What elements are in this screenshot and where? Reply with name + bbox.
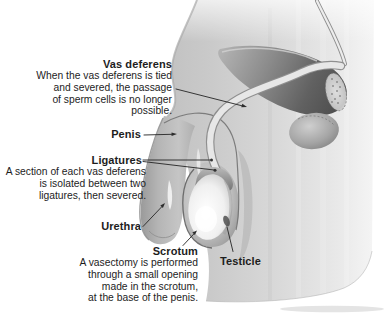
ligatures-note-line-2: is isolated between two: [6, 178, 146, 190]
testicle-label: Testicle: [220, 255, 261, 267]
callout-testicle: Testicle: [220, 255, 261, 267]
streak: [320, 0, 326, 296]
callout-vas-deferens: Vas deferens When the vas deferens is ti…: [36, 58, 172, 117]
ligatures-note-line-3: ligatures, then severed.: [6, 190, 146, 202]
streak: [296, 0, 301, 298]
streak: [344, 0, 349, 292]
scrotum-leader-line: [183, 234, 194, 246]
urethra-label: Urethra: [101, 220, 141, 232]
scrotum-note-line-3: made in the scrotum,: [80, 281, 198, 293]
penis-label: Penis: [111, 128, 141, 140]
vasectomy-diagram: Vas deferens When the vas deferens is ti…: [0, 0, 387, 315]
scrotum-label: Scrotum: [80, 245, 198, 257]
vas-deferens-note-line-4: possible.: [36, 105, 172, 117]
ligatures-label: Ligatures: [6, 154, 146, 166]
ground-shadow: [280, 306, 384, 312]
scrotum-note-line-4: at the base of the penis.: [80, 292, 198, 304]
callout-scrotum: Scrotum A vasectomy is performed through…: [80, 245, 198, 304]
testicle-highlight: [195, 206, 217, 232]
top-fade: [150, 0, 380, 42]
vas-deferens-label: Vas deferens: [36, 58, 172, 70]
callout-penis: Penis: [111, 128, 141, 140]
scrotum-note-line-2: through a small opening: [80, 269, 198, 281]
vas-deferens-note-line-3: of sperm cells is no longer: [36, 94, 172, 106]
vas-deferens-note-line-1: When the vas deferens is tied: [36, 70, 172, 82]
callout-ligatures: Ligatures A section of each vas deferens…: [6, 154, 146, 201]
vas-deferens-note-line-2: and severed, the passage: [36, 82, 172, 94]
callout-urethra: Urethra: [101, 220, 141, 232]
ligatures-note-line-1: A section of each vas deferens: [6, 166, 146, 178]
scrotum-note-line-1: A vasectomy is performed: [80, 257, 198, 269]
